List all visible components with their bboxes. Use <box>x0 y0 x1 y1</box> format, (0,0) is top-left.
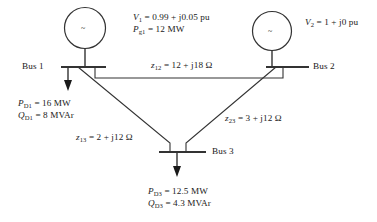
qd1-value: = 8 MVAr <box>35 110 73 120</box>
qd1-symbol: Q <box>18 110 25 120</box>
z23-subscript: 23 <box>229 117 236 124</box>
bus-2-label: Bus 2 <box>313 61 335 73</box>
impedance-z12-label: z12 = 12 + j18 Ω <box>151 60 212 72</box>
load-bus-3-specs: PD3 = 12.5 MW QD3 = 4.3 MVAr <box>148 186 211 209</box>
load-bus-1-q-line: QD1 = 8 MVAr <box>18 110 74 122</box>
bus-1-label: Bus 1 <box>22 61 44 73</box>
pd3-symbol: P <box>148 186 154 196</box>
generator-2-sine-icon: ~ <box>268 27 272 36</box>
pd3-value: = 12.5 MW <box>164 186 208 196</box>
z13-subscript: 13 <box>80 136 87 143</box>
generator-2-voltage-line: V2 = 1 + j0 pu <box>305 17 358 29</box>
qd1-subscript: D1 <box>25 114 33 121</box>
v2-value: = 1 + j0 pu <box>317 17 359 27</box>
pd1-value: = 16 MW <box>34 98 71 108</box>
pg1-value: = 12 MW <box>148 24 185 34</box>
qd3-symbol: Q <box>148 198 155 208</box>
line-z23 <box>186 67 276 152</box>
load-bus-1-specs: PD1 = 16 MW QD1 = 8 MVAr <box>18 98 74 121</box>
generator-1-voltage-line: V1 = 0.99 + j0.05 pu <box>133 12 210 24</box>
qd3-value: = 4.3 MVAr <box>165 198 211 208</box>
v1-value: = 0.99 + j0.05 pu <box>145 12 210 22</box>
v2-subscript: 2 <box>311 21 314 28</box>
bus-1-load-arrow <box>64 80 72 91</box>
generator-1-power-line: Pg1 = 12 MW <box>133 24 210 36</box>
impedance-z23-label: z23 = 3 + j12 Ω <box>225 113 282 125</box>
pd1-subscript: D1 <box>24 102 32 109</box>
generator-2-specs: V2 = 1 + j0 pu <box>305 17 358 29</box>
v1-symbol: V <box>133 12 139 22</box>
z23-value: = 3 + j12 Ω <box>238 113 282 123</box>
bus-3-label: Bus 3 <box>212 146 234 158</box>
z12-value: = 12 + j18 Ω <box>164 60 213 70</box>
pg1-subscript: g1 <box>139 28 146 35</box>
power-system-diagram: ~ ~ V1 = 0.99 + j0.05 pu Pg1 = 12 MW V2 … <box>0 0 377 222</box>
impedance-z13-label: z13 = 2 + j12 Ω <box>76 132 133 144</box>
pg1-symbol: P <box>133 24 139 34</box>
z12-subscript: 12 <box>155 64 162 71</box>
z13-value: = 2 + j12 Ω <box>89 132 133 142</box>
qd3-subscript: D3 <box>155 202 163 209</box>
load-bus-3-p-line: PD3 = 12.5 MW <box>148 186 211 198</box>
pd3-subscript: D3 <box>154 190 162 197</box>
v2-symbol: V <box>305 17 311 27</box>
generator-1-specs: V1 = 0.99 + j0.05 pu Pg1 = 12 MW <box>133 12 210 35</box>
generator-1-sine-icon: ~ <box>81 24 85 33</box>
bus-3-load-arrow <box>173 166 181 177</box>
load-bus-3-q-line: QD3 = 4.3 MVAr <box>148 198 211 210</box>
pd1-symbol: P <box>18 98 24 108</box>
load-bus-1-p-line: PD1 = 16 MW <box>18 98 74 110</box>
v1-subscript: 1 <box>139 16 142 23</box>
